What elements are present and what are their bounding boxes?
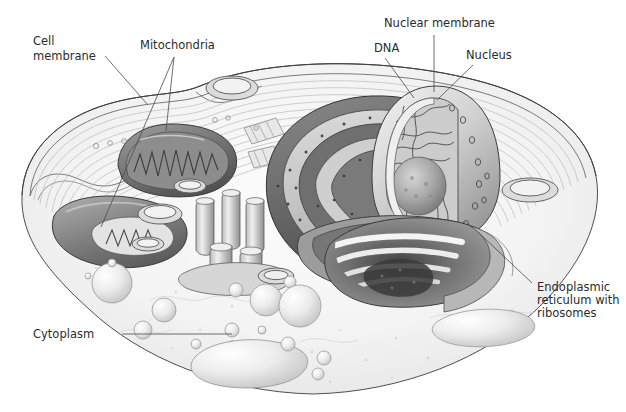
label-er-line1: Endoplasmic bbox=[537, 280, 610, 294]
label-cell-membrane-line2: membrane bbox=[33, 49, 96, 63]
label-cytoplasm: Cytoplasm bbox=[33, 327, 94, 341]
nucleolus bbox=[392, 157, 446, 215]
cell-illustration-canvas: Cell membrane Mitochondria Nuclear membr… bbox=[0, 0, 626, 412]
label-mitochondria: Mitochondria bbox=[140, 38, 215, 52]
cell-diagram-figure: Cell membrane Mitochondria Nuclear membr… bbox=[0, 0, 626, 412]
leader-cell-membrane bbox=[105, 56, 148, 105]
vacuole-bud bbox=[281, 337, 295, 351]
mitochondrion-matrix bbox=[126, 132, 228, 190]
label-dna: DNA bbox=[374, 41, 399, 55]
label-nuclear-membrane: Nuclear membrane bbox=[384, 16, 495, 30]
label-nucleus: Nucleus bbox=[466, 48, 512, 62]
label-cell-membrane-line1: Cell bbox=[33, 34, 55, 48]
label-er-line2: reticulum with bbox=[537, 293, 620, 307]
label-er-line3: ribosomes bbox=[537, 306, 597, 320]
